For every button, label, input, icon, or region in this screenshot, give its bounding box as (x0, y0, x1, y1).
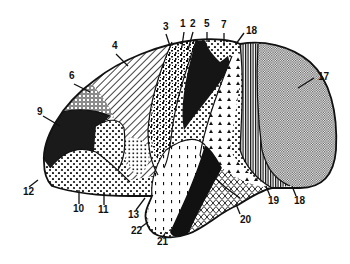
brain-diagram: 1 2 3 4 5 6 7 18 9 10 11 12 13 17 18 19 … (0, 0, 350, 264)
label-9: 9 (37, 106, 43, 117)
label-6: 6 (69, 70, 75, 81)
label-20: 20 (240, 214, 252, 225)
label-13: 13 (128, 209, 140, 220)
label-22: 22 (131, 225, 143, 236)
label-10: 10 (73, 203, 85, 214)
label-3: 3 (163, 21, 169, 32)
label-5: 5 (204, 18, 210, 29)
label-4: 4 (112, 40, 118, 51)
label-18-top: 18 (246, 25, 258, 36)
cortical-regions (0, 0, 350, 264)
label-11: 11 (98, 204, 109, 215)
region-17 (257, 44, 337, 189)
label-19: 19 (268, 195, 280, 206)
label-7: 7 (221, 19, 227, 30)
label-18-bottom: 18 (294, 195, 306, 206)
label-2: 2 (190, 18, 196, 29)
label-12: 12 (23, 186, 35, 197)
label-1: 1 (180, 18, 186, 29)
label-21: 21 (157, 236, 169, 247)
label-17: 17 (318, 71, 330, 82)
